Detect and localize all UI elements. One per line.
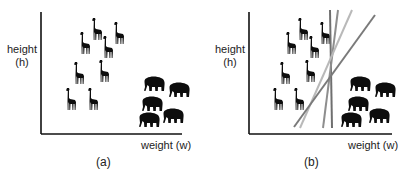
giraffe-icon <box>80 32 90 54</box>
giraffe-icon <box>99 60 109 82</box>
giraffe-icon <box>320 22 330 44</box>
giraffe-icon <box>298 18 308 40</box>
y-axis-label-symbol: (h) <box>2 56 42 69</box>
giraffe-icon <box>92 18 102 40</box>
decision-boundary-lines <box>294 10 375 128</box>
y-axis-label-text: height <box>210 43 250 56</box>
giraffe-icon <box>66 88 76 110</box>
giraffe-icon <box>280 62 290 84</box>
elephant-icon <box>144 77 165 92</box>
elephant-icon <box>169 83 190 98</box>
elephant-icon <box>369 109 390 124</box>
x-axis-label: weight (w) <box>348 139 398 151</box>
panel-a: height (h) weight (w) (a) <box>0 0 204 176</box>
giraffe-icon <box>305 60 315 82</box>
panel-caption: (b) <box>304 155 319 169</box>
giraffe-icon <box>309 36 319 58</box>
elephant-icon <box>142 97 163 112</box>
y-axis-label-symbol: (h) <box>210 56 250 69</box>
elephant-icon <box>348 97 369 112</box>
panel-caption: (a) <box>96 155 111 169</box>
elephant-icon <box>341 113 362 128</box>
panel-b: height (h) weight (w) (b) <box>204 0 408 176</box>
giraffe-icon <box>286 32 296 54</box>
giraffe-icon <box>294 88 304 110</box>
giraffe-icon <box>114 22 124 44</box>
animal-points <box>66 18 190 127</box>
axes <box>41 12 182 134</box>
y-axis-label: height (h) <box>210 43 250 69</box>
y-axis-label-text: height <box>2 43 42 56</box>
elephant-icon <box>350 77 371 92</box>
elephant-icon <box>139 113 160 128</box>
giraffe-icon <box>103 36 113 58</box>
giraffe-icon <box>88 88 98 110</box>
giraffe-icon <box>273 88 283 110</box>
x-axis-label: weight (w) <box>141 139 191 151</box>
giraffe-icon <box>74 62 84 84</box>
y-axis-label: height (h) <box>2 43 42 69</box>
elephant-icon <box>163 109 184 124</box>
elephant-icon <box>375 83 396 98</box>
